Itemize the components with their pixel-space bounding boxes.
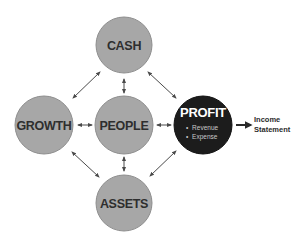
business-cycle-diagram: CASH GROWTH PEOPLE ASSETS PROFIT • Reven… bbox=[0, 0, 306, 243]
income-statement-line1: Income bbox=[254, 115, 280, 124]
node-assets: ASSETS bbox=[96, 175, 152, 231]
growth-label: GROWTH bbox=[16, 119, 71, 133]
node-growth: GROWTH bbox=[15, 96, 73, 154]
people-label: PEOPLE bbox=[100, 119, 149, 133]
profit-label: PROFIT bbox=[180, 105, 226, 120]
node-profit: PROFIT • Revenue • Expense bbox=[174, 96, 232, 154]
node-cash: CASH bbox=[96, 17, 152, 73]
arrow-growth-assets bbox=[72, 152, 99, 177]
arrow-cash-growth bbox=[73, 72, 100, 98]
arrow-cash-profit bbox=[148, 72, 176, 98]
bullet-dot-icon: • bbox=[186, 124, 189, 131]
income-statement-label: Income Statement bbox=[254, 115, 291, 134]
revenue-text: Revenue bbox=[192, 124, 218, 131]
income-statement-line2: Statement bbox=[254, 125, 291, 134]
arrow-profit-assets bbox=[150, 151, 176, 176]
node-people: PEOPLE bbox=[95, 96, 153, 154]
cash-label: CASH bbox=[107, 39, 141, 53]
assets-label: ASSETS bbox=[100, 197, 148, 211]
expense-text: Expense bbox=[192, 133, 218, 141]
bullet-dot-icon: • bbox=[186, 133, 189, 140]
